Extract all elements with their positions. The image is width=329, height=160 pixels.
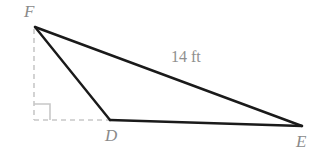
- right-angle-marker-icon: [34, 104, 50, 120]
- segment-DE: [110, 120, 302, 126]
- side-length-label-fe: 14 ft: [171, 49, 201, 65]
- vertex-label-e: E: [296, 133, 306, 150]
- geometry-figure: F D E 14 ft: [0, 0, 329, 160]
- geometry-canvas: [0, 0, 329, 160]
- vertex-label-d: D: [105, 127, 117, 144]
- vertex-label-f: F: [24, 3, 34, 20]
